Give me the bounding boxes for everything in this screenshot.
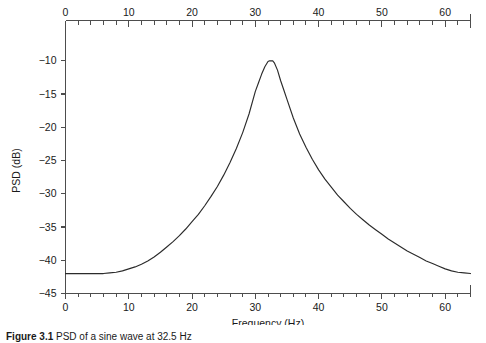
svg-text:−10: −10 <box>39 54 57 66</box>
svg-text:60: 60 <box>439 301 451 313</box>
left-axis: −10−15−20−25−30−35−40−45 <box>39 54 66 299</box>
figure-caption: Figure 3.1 PSD of a sine wave at 32.5 Hz <box>6 331 480 343</box>
svg-text:40: 40 <box>313 6 325 18</box>
svg-text:10: 10 <box>123 301 135 313</box>
svg-text:20: 20 <box>186 6 198 18</box>
figure-caption-text: PSD of a sine wave at 32.5 Hz <box>56 331 192 342</box>
svg-text:0: 0 <box>63 6 69 18</box>
x-axis-title: Frequency (Hz) <box>232 317 304 326</box>
svg-text:20: 20 <box>186 301 198 313</box>
svg-text:−25: −25 <box>39 154 57 166</box>
svg-text:0: 0 <box>63 301 69 313</box>
y-axis-title: PSD (dB) <box>10 148 22 192</box>
svg-text:−40: −40 <box>39 254 57 266</box>
top-axis: 0102030405060 <box>63 6 471 27</box>
bottom-axis: 0102030405060 <box>63 294 471 313</box>
svg-text:60: 60 <box>439 6 451 18</box>
svg-text:−30: −30 <box>39 187 57 199</box>
psd-line-chart: 0102030405060 0102030405060 −10−15−20−25… <box>0 0 486 325</box>
figure-caption-label: Figure 3.1 <box>6 331 53 342</box>
svg-text:−20: −20 <box>39 121 57 133</box>
svg-text:−45: −45 <box>39 287 57 299</box>
svg-text:10: 10 <box>123 6 135 18</box>
svg-text:−35: −35 <box>39 221 57 233</box>
svg-text:30: 30 <box>250 6 262 18</box>
data-series-psd <box>66 61 471 274</box>
svg-text:30: 30 <box>250 301 262 313</box>
chart-plot-area: 0102030405060 0102030405060 −10−15−20−25… <box>0 0 486 325</box>
svg-text:50: 50 <box>376 6 388 18</box>
svg-text:40: 40 <box>313 301 325 313</box>
svg-text:−15: −15 <box>39 88 57 100</box>
svg-text:50: 50 <box>376 301 388 313</box>
plot-frame <box>66 14 471 294</box>
